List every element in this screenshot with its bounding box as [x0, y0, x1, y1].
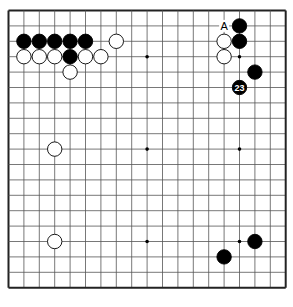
- star-point: [145, 240, 149, 244]
- star-point: [145, 55, 149, 59]
- star-point: [238, 147, 242, 151]
- black-stone: 23: [232, 80, 246, 94]
- white-stone: [94, 50, 108, 64]
- black-stone: [63, 34, 77, 48]
- black-stone: [17, 34, 31, 48]
- white-stone: [48, 234, 62, 248]
- black-stone: [248, 65, 262, 79]
- black-stone: [232, 19, 246, 33]
- star-point: [238, 240, 242, 244]
- black-stone: [217, 250, 231, 264]
- white-stone: [48, 50, 62, 64]
- move-number: 23: [234, 83, 244, 93]
- white-stone: [217, 34, 231, 48]
- black-stone: [63, 50, 77, 64]
- white-stone: [32, 50, 46, 64]
- white-stone: [48, 142, 62, 156]
- black-stone: [78, 34, 92, 48]
- go-board: 23 A: [0, 0, 293, 307]
- white-stone: [17, 50, 31, 64]
- black-stone: [248, 234, 262, 248]
- white-stone: [63, 65, 77, 79]
- marker-label: A: [220, 20, 228, 32]
- black-stone: [232, 34, 246, 48]
- white-stone: [109, 34, 123, 48]
- black-stone: [32, 34, 46, 48]
- star-point: [238, 55, 242, 59]
- white-stone: [217, 50, 231, 64]
- star-point: [145, 147, 149, 151]
- stones-layer: 23: [17, 19, 262, 264]
- white-stone: [78, 50, 92, 64]
- black-stone: [48, 34, 62, 48]
- markers-layer: A: [219, 20, 229, 32]
